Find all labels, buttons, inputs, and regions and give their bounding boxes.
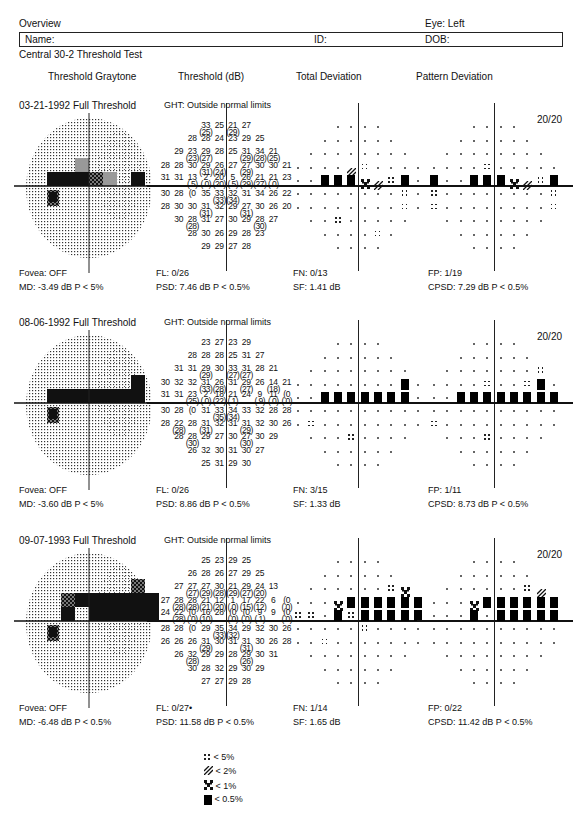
- normal-point: [337, 464, 339, 466]
- normal-point: [486, 153, 488, 155]
- normal-point: [324, 669, 326, 671]
- threshold-value: 27: [199, 677, 213, 686]
- legend-item-2pct: < 2%: [204, 766, 236, 778]
- normal-point: [513, 682, 515, 684]
- normal-point: [310, 370, 312, 372]
- normal-point: [500, 424, 502, 426]
- normal-point: [377, 207, 379, 209]
- normal-point: [404, 424, 406, 426]
- threshold-value: 30: [212, 637, 226, 646]
- normal-point: [526, 220, 528, 222]
- p-lt-0.5-icon: [470, 610, 478, 621]
- fovea-status: Fovea: OFF: [19, 268, 67, 278]
- normal-point: [540, 193, 542, 195]
- normal-point: [337, 343, 339, 345]
- normal-point: [513, 669, 515, 671]
- p-lt-0.5-icon: [321, 175, 329, 186]
- normal-point: [364, 682, 366, 684]
- normal-point: [446, 628, 448, 630]
- normal-point: [500, 140, 502, 142]
- normal-point: [460, 437, 462, 439]
- p-lt-0.5-icon: [550, 597, 558, 608]
- normal-point: [337, 167, 339, 169]
- normal-point: [350, 424, 352, 426]
- normal-point: [364, 575, 366, 577]
- threshold-value: 26: [212, 569, 226, 578]
- normal-point: [364, 561, 366, 563]
- normal-point: [324, 437, 326, 439]
- p-lt-5-icon: [402, 204, 409, 211]
- normal-point: [513, 628, 515, 630]
- p-lt-5-icon: [431, 421, 438, 428]
- normal-point: [486, 193, 488, 195]
- normal-point: [500, 669, 502, 671]
- normal-point: [473, 140, 475, 142]
- normal-point: [500, 464, 502, 466]
- normal-point: [540, 642, 542, 644]
- normal-point: [433, 628, 435, 630]
- p-lt-0.5-icon: [374, 610, 382, 621]
- normal-point: [377, 167, 379, 169]
- threshold-value: 26: [185, 446, 199, 455]
- threshold-value: (0: [185, 189, 199, 198]
- name-label: Name:: [25, 34, 54, 45]
- report-title: Overview: [19, 18, 61, 29]
- threshold-value: 28: [199, 351, 213, 360]
- normal-point: [473, 167, 475, 169]
- threshold-value: 25: [253, 569, 267, 578]
- normal-point: [350, 343, 352, 345]
- normal-point: [446, 602, 448, 604]
- threshold-value: 28: [172, 189, 186, 198]
- threshold-value: 30: [158, 378, 172, 387]
- normal-point: [350, 357, 352, 359]
- p-lt-1-icon: [510, 175, 519, 193]
- threshold-value: 28: [239, 677, 253, 686]
- threshold-value: 32: [172, 378, 186, 387]
- normal-point: [433, 615, 435, 617]
- normal-point: [513, 588, 515, 590]
- normal-point: [350, 655, 352, 657]
- normal-point: [446, 397, 448, 399]
- p-lt-0.5-icon: [483, 175, 491, 186]
- normal-point: [433, 167, 435, 169]
- threshold-value: 25: [199, 556, 213, 565]
- normal-point: [526, 451, 528, 453]
- normal-point: [310, 437, 312, 439]
- normal-point: [310, 220, 312, 222]
- normal-point: [324, 410, 326, 412]
- threshold-value: 28: [185, 351, 199, 360]
- threshold-value: 29: [199, 432, 213, 441]
- fixation-losses: FL: 0/26: [156, 485, 189, 495]
- threshold-value: 30: [266, 624, 280, 633]
- p-lt-0.5-icon: [401, 597, 409, 608]
- normal-point: [350, 410, 352, 412]
- normal-point: [500, 220, 502, 222]
- p-lt-5-icon: [524, 585, 531, 592]
- threshold-value: 31: [266, 650, 280, 659]
- normal-point: [526, 167, 528, 169]
- p-lt-5-icon: [551, 190, 558, 197]
- normal-point: [473, 464, 475, 466]
- column-header-threshold: Threshold (dB): [178, 71, 244, 82]
- p-lt-0.5-icon: [457, 392, 465, 403]
- normal-point: [390, 220, 392, 222]
- normal-point: [404, 410, 406, 412]
- threshold-value: 27: [212, 432, 226, 441]
- p-lt-0.5-icon: [497, 597, 505, 608]
- normal-point: [324, 575, 326, 577]
- p-lt-5-icon: [348, 434, 355, 441]
- normal-point: [446, 370, 448, 372]
- threshold-value: 29: [253, 664, 267, 673]
- normal-point: [404, 437, 406, 439]
- normal-point: [513, 126, 515, 128]
- normal-point: [486, 140, 488, 142]
- normal-point: [486, 575, 488, 577]
- normal-point: [500, 437, 502, 439]
- threshold-value: 26: [212, 229, 226, 238]
- threshold-value: 28: [158, 161, 172, 170]
- ght-result: GHT: Outside normal limits: [164, 317, 271, 327]
- normal-point: [433, 602, 435, 604]
- p-lt-0.5-icon: [361, 610, 369, 621]
- threshold-plot: 23272329282828253127313129(29)3033(27)31…: [151, 330, 301, 490]
- p-lt-0.5-icon: [387, 597, 395, 608]
